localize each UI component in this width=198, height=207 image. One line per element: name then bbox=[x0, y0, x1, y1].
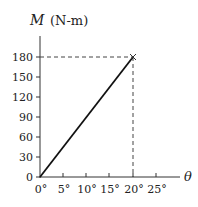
y-tick-label: 90 bbox=[19, 111, 33, 124]
y-tick-label: 0 bbox=[26, 171, 33, 184]
chart: M (N-m) 0 30 60 90 120 150 180 0° 5° 10°… bbox=[0, 0, 198, 207]
x-tick-label: 15° bbox=[100, 183, 120, 196]
y-axis-unit: (N-m) bbox=[50, 13, 88, 28]
y-axis-symbol: M bbox=[29, 12, 45, 28]
x-tick-label: 5° bbox=[58, 183, 71, 196]
y-tick-label: 120 bbox=[12, 91, 33, 104]
y-tick-label: 30 bbox=[19, 151, 33, 164]
x-tick-label: 25° bbox=[147, 183, 167, 196]
x-tick-label: 0° bbox=[35, 183, 48, 196]
x-tick-label: 20° bbox=[124, 183, 144, 196]
x-ticks: 0° 5° 10° 15° 20° 25° bbox=[35, 173, 167, 196]
y-tick-label: 180 bbox=[12, 51, 33, 64]
data-line bbox=[40, 57, 133, 177]
y-ticks: 0 30 60 90 120 150 180 bbox=[12, 51, 40, 184]
x-tick-label: 10° bbox=[77, 183, 97, 196]
y-tick-label: 60 bbox=[19, 131, 33, 144]
x-axis-label: θ bbox=[184, 169, 192, 184]
y-tick-label: 150 bbox=[12, 71, 33, 84]
